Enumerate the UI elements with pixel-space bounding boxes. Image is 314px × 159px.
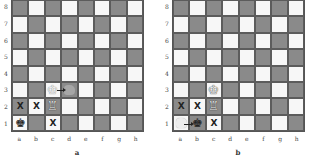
square-e5 <box>239 49 255 65</box>
square-d7 <box>222 16 238 32</box>
white-rook-icon: ♖ <box>208 100 219 112</box>
square-h5 <box>288 49 304 65</box>
square-h4 <box>127 66 143 82</box>
square-a8 <box>12 0 28 16</box>
square-d2 <box>61 98 77 114</box>
square-g7 <box>271 16 287 32</box>
square-g8 <box>271 0 287 16</box>
square-d8 <box>61 0 77 16</box>
square-b3 <box>28 82 44 98</box>
square-h3 <box>127 82 143 98</box>
square-f8 <box>94 0 110 16</box>
x-mark-icon: X <box>210 118 217 128</box>
square-g8 <box>110 0 126 16</box>
square-e8 <box>78 0 94 16</box>
square-a1: ♚ <box>12 115 28 131</box>
square-h7 <box>288 16 304 32</box>
square-c4 <box>206 66 222 82</box>
file-label: d <box>222 135 238 142</box>
file-label: c <box>45 135 61 142</box>
rank-label: 4 <box>2 70 10 77</box>
square-b5 <box>189 49 205 65</box>
x-mark-icon: X <box>17 101 24 111</box>
rank-label: 6 <box>2 37 10 44</box>
rank-label: 5 <box>163 53 171 60</box>
file-label: a <box>11 135 27 142</box>
rank-label: 2 <box>2 103 10 110</box>
file-label: g <box>111 135 127 142</box>
diagram-b: ♔XX♖♚X 87654321 abcdefgh b <box>161 0 314 159</box>
square-f5 <box>94 49 110 65</box>
square-h3 <box>288 82 304 98</box>
square-a6 <box>12 33 28 49</box>
square-f7 <box>94 16 110 32</box>
square-e6 <box>78 33 94 49</box>
square-a3 <box>12 82 28 98</box>
square-c7 <box>206 16 222 32</box>
square-f3 <box>255 82 271 98</box>
diagram-caption: a <box>69 148 85 157</box>
file-label: e <box>239 135 255 142</box>
square-h4 <box>288 66 304 82</box>
square-c6 <box>45 33 61 49</box>
square-g5 <box>271 49 287 65</box>
square-g1 <box>110 115 126 131</box>
square-e4 <box>239 66 255 82</box>
square-b7 <box>189 16 205 32</box>
square-e6 <box>239 33 255 49</box>
file-label: b <box>28 135 44 142</box>
file-label: h <box>289 135 305 142</box>
square-g7 <box>110 16 126 32</box>
square-b6 <box>28 33 44 49</box>
move-arrow-icon <box>57 90 64 91</box>
x-mark-icon: X <box>49 118 56 128</box>
square-a4 <box>173 66 189 82</box>
square-h6 <box>288 33 304 49</box>
x-mark-icon: X <box>33 101 40 111</box>
square-g2 <box>271 98 287 114</box>
square-d5 <box>222 49 238 65</box>
square-d5 <box>61 49 77 65</box>
file-label: h <box>128 135 144 142</box>
chessboard-b: ♔XX♖♚X <box>172 0 305 132</box>
square-a4 <box>12 66 28 82</box>
rank-label: 8 <box>2 3 10 10</box>
square-a7 <box>173 16 189 32</box>
square-f4 <box>94 66 110 82</box>
square-b5 <box>28 49 44 65</box>
square-g6 <box>110 33 126 49</box>
square-a8 <box>173 0 189 16</box>
file-label: c <box>206 135 222 142</box>
file-label: f <box>94 135 110 142</box>
rank-label: 7 <box>163 20 171 27</box>
white-king-icon: ♔ <box>208 84 219 96</box>
square-g1 <box>271 115 287 131</box>
rank-label: 4 <box>163 70 171 77</box>
square-b7 <box>28 16 44 32</box>
square-a5 <box>173 49 189 65</box>
rank-label: 1 <box>163 120 171 127</box>
square-c2: ♖ <box>45 98 61 114</box>
square-e7 <box>239 16 255 32</box>
file-label: a <box>172 135 188 142</box>
square-f1 <box>255 115 271 131</box>
square-f8 <box>255 0 271 16</box>
square-c6 <box>206 33 222 49</box>
square-g2 <box>110 98 126 114</box>
square-b3 <box>189 82 205 98</box>
square-h8 <box>127 0 143 16</box>
square-c3: ♔ <box>206 82 222 98</box>
square-c8 <box>206 0 222 16</box>
square-d2 <box>222 98 238 114</box>
square-b1 <box>28 115 44 131</box>
file-label: d <box>61 135 77 142</box>
chessboard-a: ♔XX♖♚X <box>11 0 144 132</box>
square-h1 <box>127 115 143 131</box>
square-c1: X <box>206 115 222 131</box>
square-a5 <box>12 49 28 65</box>
file-label: e <box>78 135 94 142</box>
square-h7 <box>127 16 143 32</box>
square-g6 <box>271 33 287 49</box>
rank-label: 8 <box>163 3 171 10</box>
square-b2: X <box>28 98 44 114</box>
